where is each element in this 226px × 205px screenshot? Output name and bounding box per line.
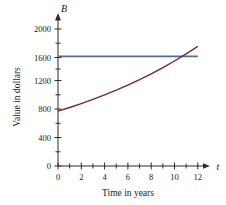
y-tick-label-0: 0 bbox=[47, 161, 51, 171]
x-tick-label-0: 0 bbox=[56, 172, 60, 182]
y-tick-label-1200: 1200 bbox=[34, 76, 51, 86]
y-tick-label-800: 800 bbox=[38, 104, 51, 114]
chart-plot-area: 0 400 800 1200 1600 2000 0 2 4 6 8 10 12… bbox=[0, 0, 226, 205]
y-tick-label-1600: 1600 bbox=[34, 53, 51, 63]
x-axis-variable-label: t bbox=[217, 161, 220, 172]
x-tick-label-4: 4 bbox=[102, 172, 107, 182]
x-tick-label-10: 10 bbox=[170, 172, 179, 182]
y-axis-title: Value in dollars bbox=[12, 67, 22, 127]
chart-figure: 0 400 800 1200 1600 2000 0 2 4 6 8 10 12… bbox=[0, 0, 226, 205]
x-tick-label-12: 12 bbox=[194, 172, 203, 182]
y-axis-arrowhead bbox=[55, 13, 61, 20]
y-tick-label-400: 400 bbox=[38, 133, 51, 143]
x-tick-label-2: 2 bbox=[79, 172, 83, 182]
x-axis-arrowhead bbox=[203, 163, 210, 169]
y-axis bbox=[55, 13, 61, 166]
y-tick-label-2000: 2000 bbox=[34, 24, 51, 34]
x-tick-label-8: 8 bbox=[149, 172, 153, 182]
y-axis-variable-label: B bbox=[61, 3, 67, 14]
x-tick-label-6: 6 bbox=[126, 172, 130, 182]
x-axis-title: Time in years bbox=[102, 188, 154, 198]
